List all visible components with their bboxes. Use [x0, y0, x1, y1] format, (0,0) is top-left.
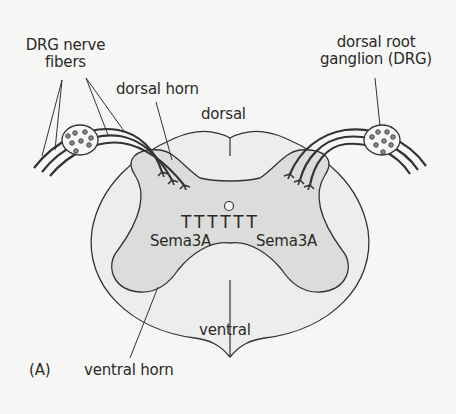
central-canal — [225, 202, 234, 211]
label-dorsal-root-ganglion: dorsal root ganglion (DRG) — [308, 34, 444, 68]
label-dorsal-horn: dorsal horn — [116, 81, 199, 98]
label-drg-nerve-fibers-line2: fibers — [18, 54, 113, 71]
right-drg-ganglion — [364, 125, 400, 155]
label-ventral: ventral — [199, 322, 251, 339]
sema3a-markers: TTTTTT — [181, 214, 260, 231]
label-drg-nerve-fibers: DRG nerve fibers — [18, 37, 113, 71]
label-ventral-horn: ventral horn — [84, 362, 173, 379]
left-drg-ganglion — [62, 125, 98, 155]
panel-label: (A) — [29, 362, 50, 379]
drg-leader — [375, 78, 380, 126]
label-sema3a-left: Sema3A — [150, 233, 211, 250]
label-sema3a-right: Sema3A — [256, 233, 317, 250]
label-drg-line2: ganglion (DRG) — [308, 51, 444, 68]
label-drg-nerve-fibers-line1: DRG nerve — [18, 37, 113, 54]
label-dorsal: dorsal — [201, 106, 246, 123]
label-drg-line1: dorsal root — [308, 34, 444, 51]
